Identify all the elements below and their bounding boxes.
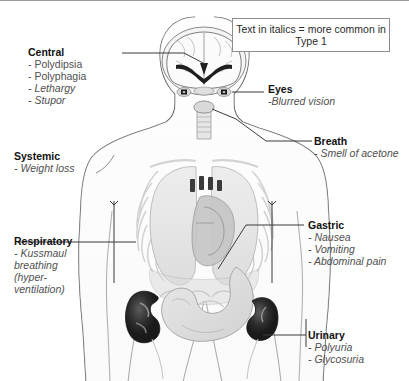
- callout-respiratory-item-0: - Kussmaul breathing (hyper-ventilation): [14, 247, 74, 295]
- callout-respiratory: Respiratory - Kussmaul breathing (hyper-…: [14, 235, 110, 295]
- callout-gastric-item-0: - Nausea: [308, 231, 386, 243]
- callout-breath: Breath - Smell of acetone: [314, 135, 399, 159]
- callout-eyes-heading: Eyes: [268, 83, 335, 95]
- callout-gastric-item-2: - Abdominal pain: [308, 255, 386, 267]
- legend-box: Text in italics = more common in Type 1: [232, 18, 390, 52]
- trachea: [194, 101, 214, 139]
- callout-central: Central - Polydipsia - Polyphagia - Leth…: [28, 46, 86, 106]
- callout-gastric: Gastric - Nausea - Vomiting - Abdominal …: [308, 219, 386, 267]
- callout-gastric-heading: Gastric: [308, 219, 386, 231]
- callout-central-item-0: - Polydipsia: [28, 58, 86, 70]
- callout-breath-heading: Breath: [314, 135, 399, 147]
- kidney-right: [126, 291, 160, 343]
- callout-breath-item-0: - Smell of acetone: [314, 147, 399, 159]
- callout-respiratory-heading: Respiratory: [14, 235, 110, 247]
- legend-text: Text in italics = more common in Type 1: [233, 23, 389, 48]
- callout-eyes: Eyes -Blurred vision: [268, 83, 335, 107]
- callout-gastric-item-1: - Vomiting: [308, 243, 386, 255]
- callout-urinary: Urinary - Polyuria - Glycosuria: [308, 329, 364, 365]
- callout-urinary-heading: Urinary: [308, 329, 364, 341]
- callout-urinary-item-0: - Polyuria: [308, 341, 364, 353]
- callout-central-item-3: - Stupor: [28, 94, 86, 106]
- callout-systemic-heading: Systemic: [14, 150, 75, 162]
- callout-eyes-item-0: -Blurred vision: [268, 95, 335, 107]
- callout-central-item-2: - Lethargy: [28, 82, 86, 94]
- callout-systemic: Systemic - Weight loss: [14, 150, 75, 174]
- callout-urinary-item-1: - Glycosuria: [308, 353, 364, 365]
- callout-systemic-item-0: - Weight loss: [14, 162, 75, 174]
- figure-root: Text in italics = more common in Type 1 …: [0, 0, 409, 381]
- callout-central-heading: Central: [28, 46, 86, 58]
- callout-central-item-1: - Polyphagia: [28, 70, 86, 82]
